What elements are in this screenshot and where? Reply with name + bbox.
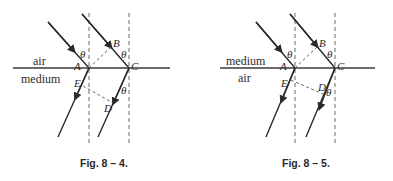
refraction-diagrams: air medium A B C D E θ θ θ Fig. 8 – 4. m… — [0, 0, 393, 181]
theta-label: θ — [121, 84, 127, 96]
figure-8-5: medium air A B C D E θ θ θ Fig. 8 – 5. — [220, 13, 375, 169]
theta-label: θ — [326, 86, 332, 98]
point-e-label: E — [73, 77, 81, 89]
point-d-label: D — [103, 102, 112, 114]
wavefront-ed — [83, 86, 113, 103]
lower-medium-label: medium — [21, 72, 61, 86]
figure-caption: Fig. 8 – 4. — [80, 157, 128, 169]
point-e-label: E — [280, 77, 288, 89]
point-d-label: D — [317, 81, 326, 93]
theta-label: θ — [80, 48, 86, 60]
theta-label: θ — [287, 48, 293, 60]
figure-caption: Fig. 8 – 5. — [282, 157, 330, 169]
theta-label: θ — [327, 48, 333, 60]
point-c-label: C — [131, 60, 139, 72]
upper-medium-label: medium — [226, 54, 266, 68]
point-b-label: B — [319, 37, 326, 49]
arrow-icon — [290, 14, 316, 45]
arrow-icon — [256, 22, 280, 50]
upper-medium-label: air — [33, 54, 46, 68]
point-a-label: A — [73, 60, 81, 72]
theta-label: θ — [121, 48, 127, 60]
wavefront-ab — [295, 47, 317, 68]
arrow-icon — [82, 14, 110, 46]
wavefront-ab — [89, 47, 111, 68]
point-a-label: A — [279, 60, 287, 72]
point-b-label: B — [113, 37, 120, 49]
figure-8-4: air medium A B C D E θ θ θ Fig. 8 – 4. — [13, 13, 170, 169]
point-c-label: C — [337, 60, 345, 72]
arrow-icon — [48, 22, 73, 50]
lower-medium-label: air — [238, 71, 251, 85]
